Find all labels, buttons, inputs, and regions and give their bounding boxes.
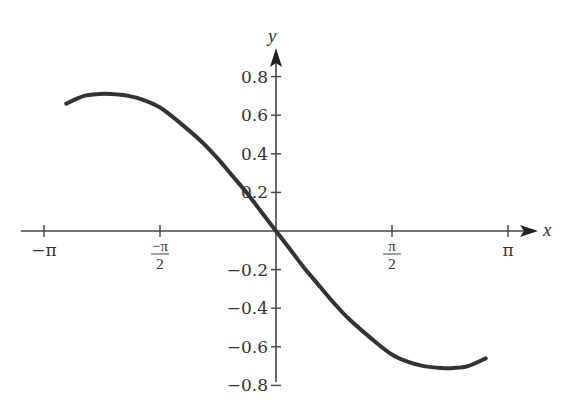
x-tick-label-denominator: 2 [156, 256, 164, 272]
x-tick-label-denominator: 2 [388, 256, 396, 272]
x-axis-label: x [542, 219, 552, 240]
axes: x y [21, 25, 552, 382]
x-tick-label: π [502, 240, 513, 260]
y-tick-label: −0.6 [227, 337, 268, 357]
y-tick-label: 0.4 [241, 144, 268, 164]
y-tick-label: −0.8 [227, 375, 268, 395]
x-tick-label: −π [31, 240, 56, 260]
y-tick-label: −0.2 [227, 260, 268, 280]
y-tick-label: 0.8 [241, 67, 268, 87]
x-tick-label-numerator: −π [152, 238, 168, 254]
function-plot: x y 0.80.60.40.2−0.2−0.4−0.6−0.8 −π−π2π2… [0, 0, 562, 411]
x-tick-label-numerator: π [388, 238, 396, 254]
y-axis-label: y [266, 25, 277, 46]
y-tick-label: −0.4 [227, 298, 268, 318]
y-tick-label: 0.6 [241, 105, 268, 125]
x-ticks: −π−π2π2π [31, 225, 513, 272]
